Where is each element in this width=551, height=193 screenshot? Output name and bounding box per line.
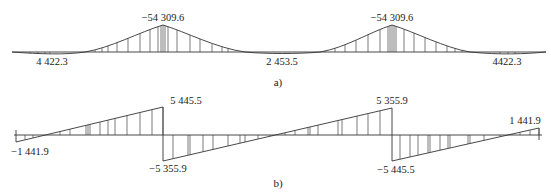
shear-segment-1 bbox=[16, 107, 163, 142]
shear-top-left-label: 5 445.5 bbox=[170, 95, 202, 106]
moment-peak-right-label: −54 309.6 bbox=[371, 12, 414, 23]
shear-segment-3 bbox=[392, 128, 539, 161]
shear-start-left-label: −1 441.9 bbox=[11, 146, 48, 157]
moment-hatching bbox=[30, 25, 515, 54]
shear-end-right-label: 1 441.9 bbox=[509, 115, 541, 126]
moment-end-right-label: 4422.3 bbox=[493, 56, 522, 67]
moment-peak-left-label: −54 309.6 bbox=[142, 12, 185, 23]
diagram-a-caption: a) bbox=[274, 76, 283, 89]
moment-curve bbox=[12, 25, 546, 54]
moment-end-left-label: 4 422.3 bbox=[36, 56, 68, 67]
shear-segment-2 bbox=[163, 108, 392, 161]
structural-diagrams: −54 309.6 −54 309.6 4 422.3 2 453.5 4422… bbox=[0, 0, 551, 193]
shear-top-right-label: 5 355.9 bbox=[376, 95, 408, 106]
diagram-b-caption: b) bbox=[273, 177, 283, 190]
shear-bottom-right-label: −5 445.5 bbox=[377, 164, 414, 175]
shear-diagram: 5 445.5 −5 355.9 5 355.9 −5 445.5 −1 441… bbox=[11, 95, 542, 190]
moment-mid-label: 2 453.5 bbox=[266, 56, 298, 67]
shear-bottom-left-label: −5 355.9 bbox=[149, 163, 186, 174]
moment-diagram: −54 309.6 −54 309.6 4 422.3 2 453.5 4422… bbox=[12, 12, 546, 89]
